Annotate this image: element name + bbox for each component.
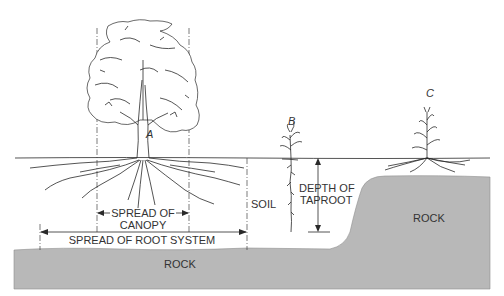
spread-of-canopy-label-line2: CANOPY [120, 219, 167, 231]
rock-label-right: ROCK [413, 212, 445, 224]
plant-b-icon: B [280, 115, 302, 232]
root-system-diagram: A B C SPREAD OF CANOPY SPREAD OF ROOT SY… [0, 0, 504, 296]
tree-a-icon: A [30, 20, 244, 208]
spread-of-canopy-label-line1: SPREAD OF [111, 207, 175, 219]
plant-c-icon: C [385, 87, 470, 172]
depth-of-taproot-label-line1: DEPTH OF [299, 182, 355, 194]
soil-label: SOIL [251, 198, 276, 210]
depth-of-taproot-label-line2: TAPROOT [300, 194, 353, 206]
plant-label-a: A [145, 128, 153, 140]
rock-label-left: ROCK [164, 258, 196, 270]
ground-line [15, 158, 490, 159]
spread-of-root-system-label: SPREAD OF ROOT SYSTEM [69, 234, 216, 246]
plant-label-b: B [288, 115, 295, 127]
plant-label-c: C [426, 87, 434, 99]
